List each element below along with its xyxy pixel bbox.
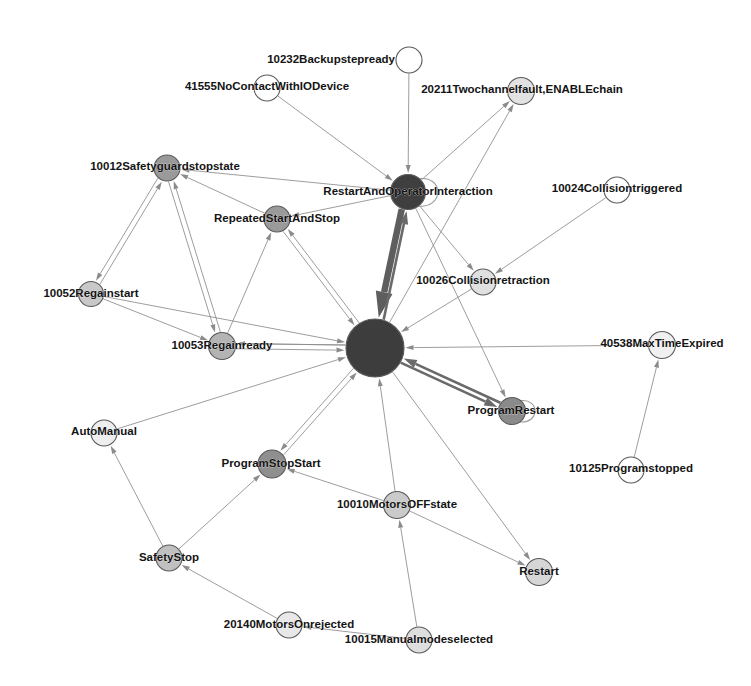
graph-node-label: RepeatedStartAndStop [214, 212, 340, 224]
graph-edge [179, 480, 255, 549]
graph-edge-arrowhead [385, 174, 393, 181]
graph-node[interactable] [346, 319, 404, 377]
graph-edge-arrowhead [336, 348, 344, 353]
graph-edge-arrowhead [348, 317, 355, 325]
graph-node-label: 20211Twochannelfault,ENABLEchain [421, 83, 623, 95]
graph-node-label: 10053Regainready [171, 339, 273, 351]
graph-node-label: Restart [519, 565, 559, 577]
graph-edge [408, 289, 472, 328]
graph-edge-arrowhead [495, 267, 503, 274]
graph-edge [286, 368, 354, 444]
graph-edge [416, 208, 502, 390]
graph-edge [401, 528, 417, 627]
graph-edge [284, 379, 352, 455]
graph-edge-arrowhead [378, 378, 383, 386]
graph-edge-arrowhead [500, 389, 506, 397]
graph-edge-arrowhead [180, 174, 188, 180]
graph-edge [100, 178, 158, 274]
graph-node-label: 10125Programstopped [569, 462, 693, 474]
graph-edge [278, 96, 386, 176]
graph-edge-arrowhead [406, 165, 411, 173]
graph-edge-arrowhead [507, 104, 513, 112]
graph-edge-arrowhead [155, 182, 161, 190]
graph-node-label: AutoManual [71, 425, 137, 437]
graph-node-label: 10024Collisiontriggered [552, 182, 682, 194]
graph-edge-arrowhead [337, 338, 345, 343]
graph-edge-arrowhead [288, 229, 295, 237]
graph-edge-arrowhead [338, 357, 346, 362]
graph-edge [408, 73, 409, 165]
graph-edge-arrowhead [401, 326, 409, 332]
graph-node-label: ProgramRestart [468, 404, 555, 416]
graph-node-label: 10026Collisionretraction [416, 274, 550, 286]
graph-node-label: SafetyStop [139, 551, 199, 563]
graph-edge-arrowhead [266, 232, 271, 240]
self-loops-layer [417, 178, 535, 421]
graph-node-label: 10010MotorsOFFstate [337, 498, 457, 510]
graph-edge [100, 189, 158, 285]
graph-edge [117, 360, 338, 429]
graph-edge [283, 231, 350, 319]
graph-edge [293, 235, 360, 323]
graph-node-label: 10012Safetyguardstopstate [90, 160, 240, 172]
graph-edge-arrowhead [287, 469, 295, 474]
graph-node-label: 10015Manualmodeselected [345, 633, 493, 645]
graph-node-label: 10232Backupstepready [267, 53, 395, 65]
graph-edge-arrowhead [405, 345, 413, 350]
graph-node-label: 40538MaxTimeExpired [600, 337, 723, 349]
graph-edge [416, 364, 501, 403]
graph-edge [228, 240, 268, 334]
graph-edge-arrowhead [182, 565, 190, 571]
graph-node[interactable] [396, 47, 422, 73]
graph-node-label: 20140MotorsOnrejected [224, 618, 354, 630]
graph-edge [634, 367, 656, 457]
graph-node-label: RestartAndOperatorInteraction [323, 185, 492, 197]
graph-edge-arrowhead [174, 181, 179, 189]
graph-node-label: ProgramStopStart [221, 457, 320, 469]
graph-edge [380, 386, 395, 491]
graph-edge-arrowhead [210, 324, 215, 332]
graph-edge-arrowhead [96, 273, 102, 281]
graph-svg: 10232Backupstepready41555NoContactWithIO… [0, 0, 751, 686]
graph-edge [103, 299, 201, 338]
graph-node-label: 41555NoContactWithIODevice [185, 80, 349, 92]
graph-edge-arrowhead [398, 520, 403, 528]
graph-edge-arrowhead [654, 360, 659, 368]
graph-edge [187, 177, 264, 213]
graph-edge [189, 569, 278, 618]
graph-edge-arrowhead [111, 446, 117, 454]
graph-edge [410, 511, 519, 562]
graph-edge [401, 363, 486, 402]
graph-edge [169, 182, 213, 325]
graph-edge [502, 198, 606, 270]
graph-edge [114, 453, 162, 546]
graph-edge [294, 471, 383, 500]
graph-edge-arrowhead [523, 552, 530, 560]
graph-edge [176, 189, 220, 332]
network-graph-canvas: 10232Backupstepready41555NoContactWithIO… [0, 0, 751, 686]
graph-node-label: 10052Regainstart [43, 287, 138, 299]
